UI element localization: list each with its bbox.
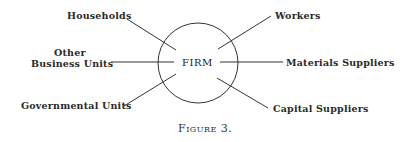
label-materials-suppliers: Materials Suppliers [286, 57, 395, 68]
diagram-lines [0, 0, 402, 142]
figure-caption: Figure 3. [178, 122, 232, 135]
label-capital-suppliers: Capital Suppliers [273, 103, 369, 114]
label-workers: Workers [275, 10, 321, 21]
label-other: Other [54, 47, 86, 58]
label-households: Households [67, 10, 131, 21]
label-governmental-units: Governmental Units [21, 100, 132, 111]
label-business-units: Business Units [31, 58, 113, 69]
label-firm: FIRM [182, 57, 213, 68]
